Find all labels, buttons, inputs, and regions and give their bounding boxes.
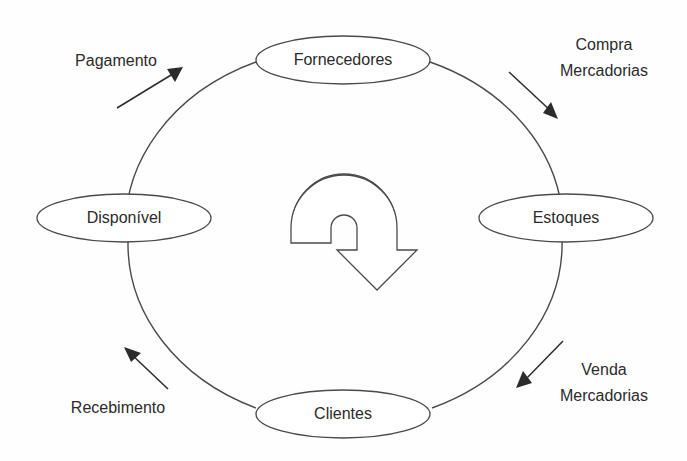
flow-label-venda-line-2: Mercadorias [560, 387, 648, 404]
flow-arrow-pagamento-line [117, 72, 176, 108]
flow-label-venda-line-1: Venda [581, 361, 626, 378]
flow-arrow-compra-head [543, 102, 558, 119]
flow-label-recebimento: Recebimento [71, 399, 165, 416]
cycle-diagram-canvas: Fornecedores Estoques Clientes Disponíve… [0, 0, 687, 461]
node-estoques[interactable]: Estoques [479, 194, 653, 242]
flow-arrow-venda [516, 341, 563, 388]
flow-arrow-pagamento [117, 67, 183, 108]
node-fornecedores-label: Fornecedores [294, 51, 393, 68]
node-clientes[interactable]: Clientes [256, 390, 430, 438]
node-estoques-label: Estoques [533, 209, 600, 226]
cycle-circle [126, 62, 563, 408]
flow-label-compra: Compra Mercadorias [560, 36, 648, 79]
flow-arrow-compra-line [509, 72, 552, 112]
node-clientes-label: Clientes [314, 405, 372, 422]
arc-estoques-clientes [432, 238, 562, 408]
arc-clientes-disponivel [128, 242, 256, 408]
node-disponivel[interactable]: Disponível [37, 194, 211, 242]
flow-label-pagamento-line-1: Pagamento [75, 52, 157, 69]
flow-label-venda: Venda Mercadorias [560, 361, 648, 404]
flow-arrow-recebimento-head [124, 347, 141, 362]
rotation-arrow-outline [291, 175, 417, 290]
arc-fornecedores-estoques [430, 62, 560, 198]
flow-arrow-recebimento-line [130, 353, 168, 389]
flow-arrow-pagamento-head [167, 67, 183, 82]
flow-label-compra-line-2: Mercadorias [560, 62, 648, 79]
flow-arrow-compra [509, 72, 558, 119]
node-fornecedores[interactable]: Fornecedores [256, 36, 430, 84]
flow-arrow-venda-head [516, 371, 532, 388]
cycle-diagram-svg: Fornecedores Estoques Clientes Disponíve… [0, 0, 687, 461]
flow-label-pagamento: Pagamento [75, 52, 157, 69]
flow-label-recebimento-line-1: Recebimento [71, 399, 165, 416]
node-disponivel-label: Disponível [87, 209, 162, 226]
flow-arrow-recebimento [124, 347, 168, 389]
flow-arrow-venda-line [524, 341, 563, 381]
flow-label-compra-line-1: Compra [576, 36, 633, 53]
